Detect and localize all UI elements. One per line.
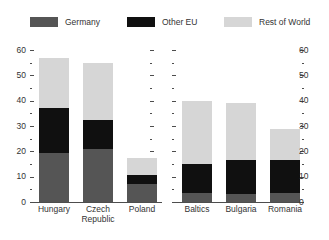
bar-segment-other-eu [127, 175, 157, 184]
y-tick-55 [172, 63, 174, 64]
y-tick-20 [30, 151, 34, 152]
y-tick-30 [150, 126, 154, 127]
y-tick-25 [302, 139, 304, 140]
y-tick-45 [302, 88, 304, 89]
y-tick-20 [172, 151, 176, 152]
y-tick-45 [172, 88, 174, 89]
bar-segment-rest-of-world [39, 58, 69, 109]
x-axis-baseline-left [30, 202, 162, 203]
y-tick-10 [30, 177, 34, 178]
y-tick-label-40: 40 [299, 96, 317, 105]
y-tick-5 [172, 189, 174, 190]
y-tick-label-40: 40 [8, 96, 26, 105]
bar-segment-germany [83, 149, 113, 202]
y-tick-25 [172, 139, 174, 140]
bar-segment-germany [182, 193, 212, 202]
y-tick-50 [172, 75, 176, 76]
y-tick-40 [30, 101, 34, 102]
bar-segment-other-eu [270, 160, 300, 193]
bar-czech-republic[interactable] [83, 63, 113, 202]
y-tick-label-10: 10 [8, 172, 26, 181]
y-tick-label-30: 30 [299, 122, 317, 131]
bar-hungary[interactable] [39, 58, 69, 202]
y-tick-15 [302, 164, 304, 165]
y-tick-50 [30, 75, 34, 76]
y-tick-15 [30, 164, 32, 165]
y-tick-35 [150, 113, 152, 114]
y-tick-55 [302, 63, 304, 64]
bar-segment-germany [39, 153, 69, 202]
y-tick-25 [150, 139, 152, 140]
y-tick-35 [302, 113, 304, 114]
bar-segment-other-eu [226, 160, 256, 194]
y-tick-55 [150, 63, 152, 64]
bar-segment-rest-of-world [270, 129, 300, 161]
y-tick-5 [302, 189, 304, 190]
y-tick-10 [172, 177, 176, 178]
x-axis-baseline-right [172, 202, 304, 203]
y-tick-label-50: 50 [8, 71, 26, 80]
y-tick-label-20: 20 [299, 147, 317, 156]
bar-romania[interactable] [270, 129, 300, 202]
y-tick-40 [150, 101, 154, 102]
plot-area: Hungary Czech Republic Poland 0102030405… [0, 0, 329, 240]
bar-baltics[interactable] [182, 101, 212, 202]
y-tick-label-60: 60 [299, 46, 317, 55]
y-tick-25 [30, 139, 32, 140]
y-tick-35 [172, 113, 174, 114]
bar-segment-germany [226, 194, 256, 202]
y-tick-35 [30, 113, 32, 114]
y-tick-label-30: 30 [8, 122, 26, 131]
bar-segment-germany [270, 193, 300, 202]
y-tick-60 [30, 50, 34, 51]
stacked-bar-chart: Germany Other EU Rest of World [0, 0, 329, 240]
bar-segment-rest-of-world [226, 103, 256, 160]
y-tick-40 [172, 101, 176, 102]
bar-bulgaria[interactable] [226, 103, 256, 202]
y-tick-label-60: 60 [8, 46, 26, 55]
y-tick-60 [150, 50, 154, 51]
y-tick-30 [172, 126, 176, 127]
bar-segment-other-eu [39, 108, 69, 152]
category-label-czech-line2: Republic [66, 214, 130, 224]
y-tick-label-0: 0 [299, 198, 317, 207]
y-tick-5 [30, 189, 32, 190]
bar-segment-other-eu [182, 164, 212, 193]
y-tick-45 [150, 88, 152, 89]
y-tick-label-0: 0 [8, 198, 26, 207]
bar-segment-germany [127, 184, 157, 202]
y-tick-30 [30, 126, 34, 127]
bar-segment-rest-of-world [182, 101, 212, 164]
y-tick-45 [30, 88, 32, 89]
panel-right: Baltics Bulgaria Romania 0102030405060 [172, 0, 329, 240]
y-tick-label-50: 50 [299, 71, 317, 80]
y-tick-55 [30, 63, 32, 64]
bar-segment-rest-of-world [127, 158, 157, 176]
y-tick-15 [172, 164, 174, 165]
bar-segment-rest-of-world [83, 63, 113, 120]
panel-left: Hungary Czech Republic Poland 0102030405… [0, 0, 172, 240]
y-tick-label-20: 20 [8, 147, 26, 156]
y-tick-20 [150, 151, 154, 152]
y-tick-label-10: 10 [299, 172, 317, 181]
y-tick-50 [150, 75, 154, 76]
y-tick-60 [172, 50, 176, 51]
bar-segment-other-eu [83, 120, 113, 149]
bar-poland[interactable] [127, 158, 157, 202]
